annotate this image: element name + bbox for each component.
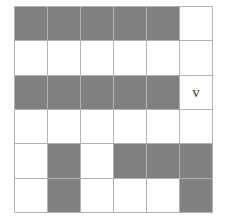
grid-cell-r3c2[interactable]	[48, 76, 80, 109]
grid-cell-r1c6[interactable]	[180, 7, 212, 40]
grid-cell-r2c2[interactable]	[48, 41, 80, 74]
grid-cell-r1c1[interactable]	[15, 7, 47, 40]
grid-cell-r3c4[interactable]	[114, 76, 146, 109]
grid-cell-r2c5[interactable]	[147, 41, 179, 74]
grid-cell-r4c3[interactable]	[81, 110, 113, 143]
puzzle-canvas: v	[0, 0, 225, 223]
grid-cell-r1c2[interactable]	[48, 7, 80, 40]
grid-cell-r2c3[interactable]	[81, 41, 113, 74]
grid-cell-r6c1[interactable]	[15, 179, 47, 212]
grid-cell-r6c5[interactable]	[147, 179, 179, 212]
grid-cell-r2c6[interactable]	[180, 41, 212, 74]
grid-cell-r6c2[interactable]	[48, 179, 80, 212]
grid-cell-r2c1[interactable]	[15, 41, 47, 74]
grid-cell-r4c6[interactable]	[180, 110, 212, 143]
grid-cell-r1c5[interactable]	[147, 7, 179, 40]
grid-cell-r3c1[interactable]	[15, 76, 47, 109]
grid-cell-r6c4[interactable]	[114, 179, 146, 212]
puzzle-grid: v	[14, 6, 213, 213]
grid-cell-r5c5[interactable]	[147, 144, 179, 177]
grid-cell-r1c4[interactable]	[114, 7, 146, 40]
grid-cell-r5c4[interactable]	[114, 144, 146, 177]
grid-cell-r5c6[interactable]	[180, 144, 212, 177]
grid-cell-r4c1[interactable]	[15, 110, 47, 143]
grid-cell-r4c2[interactable]	[48, 110, 80, 143]
grid-cell-r3c6[interactable]: v	[180, 76, 212, 109]
grid-cell-r1c3[interactable]	[81, 7, 113, 40]
grid-cell-r4c5[interactable]	[147, 110, 179, 143]
grid-cell-r3c5[interactable]	[147, 76, 179, 109]
grid-cell-label: v	[192, 85, 200, 100]
grid-cell-r4c4[interactable]	[114, 110, 146, 143]
grid-cell-r3c3[interactable]	[81, 76, 113, 109]
grid-cell-r2c4[interactable]	[114, 41, 146, 74]
grid-cell-r6c3[interactable]	[81, 179, 113, 212]
grid-cell-r5c1[interactable]	[15, 144, 47, 177]
grid-cell-r5c2[interactable]	[48, 144, 80, 177]
grid-cell-r5c3[interactable]	[81, 144, 113, 177]
grid-cell-r6c6[interactable]	[180, 179, 212, 212]
